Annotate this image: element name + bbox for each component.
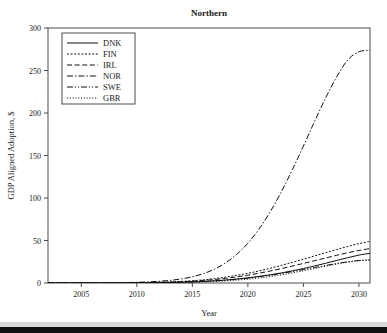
x-tick-label: 2030 <box>351 290 367 299</box>
footer-band-dark <box>0 327 387 333</box>
y-tick-label: 0 <box>37 279 41 288</box>
y-tick-label: 300 <box>29 24 41 33</box>
legend-label-nor[interactable]: NOR <box>103 71 121 81</box>
legend-label-swe[interactable]: SWE <box>103 82 121 92</box>
figure-container: NorthernYearGDP Aligned Adoption, $20052… <box>0 0 387 333</box>
y-tick-label: 150 <box>29 152 41 161</box>
y-axis-label: GDP Aligned Adoption, $ <box>6 112 16 200</box>
legend-label-dnk[interactable]: DNK <box>103 38 122 48</box>
legend-label-irl[interactable]: IRL <box>103 60 117 70</box>
legend-box <box>62 33 135 104</box>
line-chart: NorthernYearGDP Aligned Adoption, $20052… <box>0 0 387 333</box>
x-tick-label: 2020 <box>240 290 256 299</box>
x-tick-label: 2010 <box>129 290 145 299</box>
x-tick-label: 2015 <box>184 290 200 299</box>
legend-label-fin[interactable]: FIN <box>103 49 117 59</box>
x-tick-label: 2005 <box>73 290 89 299</box>
y-tick-label: 100 <box>29 194 41 203</box>
y-tick-label: 250 <box>29 67 41 76</box>
y-tick-label: 50 <box>33 237 41 246</box>
y-tick-label: 200 <box>29 109 41 118</box>
x-tick-label: 2025 <box>295 290 311 299</box>
legend-label-gbr[interactable]: GBR <box>103 93 121 103</box>
chart-title: Northern <box>191 8 227 18</box>
x-axis-label: Year <box>201 308 217 318</box>
